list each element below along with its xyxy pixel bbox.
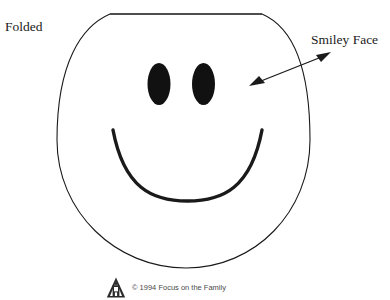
- face-outline: [57, 14, 310, 268]
- copyright-row: © 1994 Focus on the Family: [106, 277, 226, 298]
- right-eye: [192, 63, 215, 105]
- leader-arrow-head-upper-right: [316, 52, 331, 62]
- smiley-face-label: Smiley Face: [311, 33, 378, 47]
- focus-on-the-family-logo: [106, 277, 126, 298]
- worksheet-page: Folded Smiley Face © 1994 Focus on the F…: [0, 0, 390, 300]
- folded-label: Folded: [5, 20, 43, 34]
- copyright-text: © 1994 Focus on the Family: [132, 284, 226, 292]
- left-eye: [148, 63, 171, 105]
